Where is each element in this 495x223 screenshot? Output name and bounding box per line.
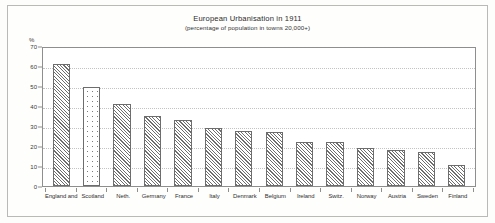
chart-title-block: European Urbanisation in 1911 (percentag… bbox=[0, 14, 495, 32]
x-axis-tick-mark bbox=[381, 188, 382, 192]
bar bbox=[326, 142, 343, 186]
bar bbox=[53, 64, 70, 186]
x-axis-tick-label: Denmark bbox=[230, 193, 260, 199]
x-axis-tick-label: Italy bbox=[199, 193, 229, 199]
x-axis: England andScotlandNeth.GermanyFranceIta… bbox=[42, 188, 476, 212]
x-axis-tick-mark bbox=[198, 188, 199, 192]
y-axis-unit-label: % bbox=[29, 37, 34, 43]
x-axis-tick-mark bbox=[473, 188, 474, 192]
y-axis-tick-label: 10 bbox=[30, 164, 37, 170]
bar bbox=[387, 150, 404, 186]
x-axis-tick-label: Scotland bbox=[78, 193, 108, 199]
x-axis-tick-mark bbox=[412, 188, 413, 192]
bar-slot bbox=[320, 48, 350, 186]
x-axis-tick-label: Ireland bbox=[291, 193, 321, 199]
y-axis: 010203040506070 bbox=[0, 47, 42, 187]
x-axis-tick-label: Switz. bbox=[321, 193, 351, 199]
y-axis-tick-label: 60 bbox=[30, 64, 37, 70]
bar bbox=[448, 165, 465, 186]
x-axis-tick-label: Neth. bbox=[108, 193, 138, 199]
y-axis-tick-label: 30 bbox=[30, 124, 37, 130]
x-axis-tick-mark bbox=[320, 188, 321, 192]
x-axis-tick-label: France bbox=[169, 193, 199, 199]
bar-slot bbox=[76, 48, 106, 186]
bar-slot bbox=[229, 48, 259, 186]
bar bbox=[205, 128, 222, 186]
x-axis-tick-mark bbox=[76, 188, 77, 192]
chart-figure: European Urbanisation in 1911 (percentag… bbox=[0, 0, 495, 223]
chart-subtitle: (percentage of population in towns 20,00… bbox=[0, 24, 495, 32]
bar bbox=[357, 148, 374, 186]
bar bbox=[266, 132, 283, 186]
x-axis-tick-mark bbox=[106, 188, 107, 192]
bar-slot bbox=[350, 48, 380, 186]
x-axis-tick-mark bbox=[137, 188, 138, 192]
x-axis-tick-mark bbox=[351, 188, 352, 192]
bar bbox=[296, 142, 313, 186]
plot-area bbox=[42, 47, 476, 187]
bar-slot bbox=[411, 48, 441, 186]
x-axis-tick-mark bbox=[290, 188, 291, 192]
bar bbox=[418, 152, 435, 186]
plot-wrapper bbox=[42, 47, 476, 187]
x-axis-tick-label: Austria bbox=[382, 193, 412, 199]
x-axis-tick-mark bbox=[259, 188, 260, 192]
x-axis-tick-label: Norway bbox=[351, 193, 381, 199]
x-axis-tick-mark bbox=[167, 188, 168, 192]
bar-slot bbox=[259, 48, 289, 186]
x-axis-tick-mark bbox=[442, 188, 443, 192]
bar-slot bbox=[198, 48, 228, 186]
bar-slot bbox=[107, 48, 137, 186]
x-axis-labels: England andScotlandNeth.GermanyFranceIta… bbox=[42, 193, 476, 199]
bar bbox=[113, 104, 130, 186]
bar-slot bbox=[137, 48, 167, 186]
bar-slot bbox=[289, 48, 319, 186]
bar-slot bbox=[168, 48, 198, 186]
y-axis-tick-label: 40 bbox=[30, 104, 37, 110]
x-axis-tick-mark bbox=[228, 188, 229, 192]
x-axis-tick-label: Belgium bbox=[260, 193, 290, 199]
page-title: European Urbanisation in 1911 bbox=[0, 14, 495, 23]
x-axis-tick-label: Sweden bbox=[412, 193, 442, 199]
bar-slot bbox=[381, 48, 411, 186]
x-axis-tick-label: Finland bbox=[443, 193, 473, 199]
y-axis-tick-label: 70 bbox=[30, 44, 37, 50]
x-axis-tick-label: England and bbox=[45, 193, 78, 199]
x-axis-tick-label: Germany bbox=[138, 193, 168, 199]
x-axis-ticks bbox=[42, 188, 476, 192]
bar-series bbox=[43, 48, 475, 186]
y-axis-tick-label: 50 bbox=[30, 84, 37, 90]
y-axis-tick-label: 0 bbox=[34, 184, 37, 190]
bar bbox=[83, 87, 100, 186]
bar-slot bbox=[441, 48, 471, 186]
x-axis-tick-mark bbox=[45, 188, 46, 192]
bar bbox=[144, 116, 161, 186]
bar bbox=[235, 131, 252, 186]
y-axis-tick-label: 20 bbox=[30, 144, 37, 150]
bar-slot bbox=[46, 48, 76, 186]
bar bbox=[174, 120, 191, 186]
